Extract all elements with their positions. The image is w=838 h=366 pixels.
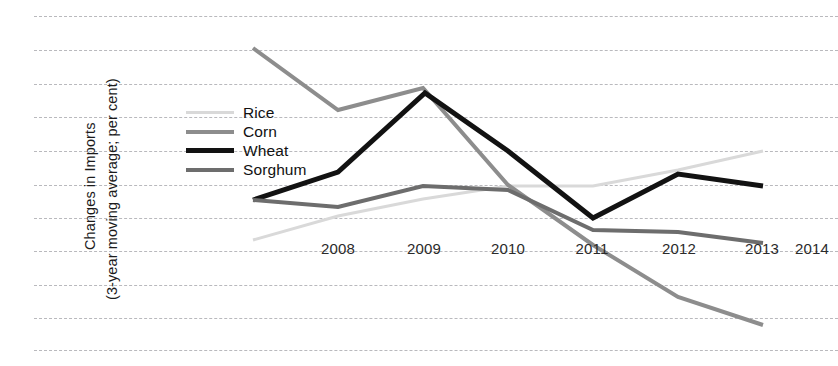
legend-item-sorghum[interactable]: Sorghum	[186, 160, 307, 179]
x-tick-label-2011: 2011	[575, 240, 608, 257]
legend-item-wheat[interactable]: Wheat	[186, 141, 307, 160]
series-line-rice	[253, 151, 763, 240]
y-axis-title: Changes in Imports (3-year moving averag…	[26, 0, 88, 366]
legend: RiceCornWheatSorghum	[186, 103, 307, 179]
series-layer	[0, 0, 838, 366]
legend-item-corn[interactable]: Corn	[186, 122, 307, 141]
y-axis-title-line2: (3-year moving average; per cent)	[104, 78, 120, 300]
legend-swatch-wheat	[186, 148, 234, 153]
legend-swatch-corn	[186, 130, 234, 134]
legend-label-rice: Rice	[243, 103, 274, 122]
y-axis-title-line1: Changes in Imports	[82, 122, 98, 250]
chart-figure: Changes in Imports (3-year moving averag…	[0, 0, 838, 366]
x-tick-label-2010: 2010	[491, 240, 525, 257]
series-line-sorghum	[253, 186, 763, 243]
legend-label-wheat: Wheat	[243, 141, 288, 160]
x-tick-label-2008: 2008	[321, 240, 355, 257]
series-line-wheat	[253, 93, 763, 218]
series-line-corn	[253, 48, 763, 325]
plot-area: Changes in Imports (3-year moving averag…	[0, 0, 838, 366]
x-tick-label-2013: 2013	[745, 240, 779, 257]
legend-label-corn: Corn	[243, 122, 277, 141]
legend-label-sorghum: Sorghum	[243, 160, 307, 179]
x-tick-label-2014: 2014	[795, 240, 829, 257]
legend-swatch-sorghum	[186, 168, 234, 172]
legend-swatch-rice	[186, 111, 234, 114]
x-tick-label-2012: 2012	[662, 240, 696, 257]
legend-item-rice[interactable]: Rice	[186, 103, 307, 122]
x-tick-label-2009: 2009	[407, 240, 441, 257]
